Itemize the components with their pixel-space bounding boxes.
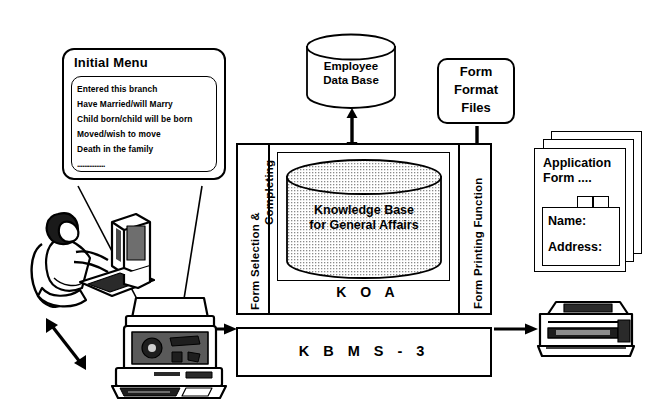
employee-database-cylinder[interactable]: Employee Data Base [305, 33, 397, 109]
application-form-fields-frame: Name: Address: [542, 207, 620, 266]
koa-label: K O A [318, 284, 418, 300]
menu-item-3[interactable]: Child born/child will be born [77, 112, 216, 127]
initial-menu-list: Entered this branch Have Married/will Ma… [71, 76, 217, 172]
menu-item-1[interactable]: Entered this branch [77, 82, 216, 97]
form-format-line1: Form [439, 63, 513, 81]
application-form-line1: Application [543, 156, 611, 171]
menu-item-5[interactable]: Death in the family [77, 142, 216, 157]
menu-item-4[interactable]: Moved/wish to move [77, 127, 216, 142]
form-format-line3: Files [439, 99, 513, 117]
form-printing-label: Form Printing Function [472, 177, 484, 309]
workstation-computer-icon[interactable] [112, 296, 226, 400]
initial-menu-title: Initial Menu [74, 55, 148, 70]
application-form-sheet-front[interactable]: Application Form .... Name: Address: [534, 148, 626, 272]
user-bidirectional-arrow-icon [42, 318, 90, 370]
form-selection-label-line1: Form Selection & [249, 212, 261, 310]
menu-item-2[interactable]: Have Married/will Marry [77, 97, 216, 112]
initial-menu-panel[interactable]: Initial Menu Entered this branch Have Ma… [62, 48, 226, 180]
form-field-name-label: Name: [548, 214, 586, 229]
application-form-line2: Form .... [543, 171, 611, 186]
form-format-line2: Format [439, 81, 513, 99]
printer-icon[interactable] [534, 300, 638, 362]
form-selection-label-line2: Completing [263, 160, 275, 225]
knowledge-base-cylinder[interactable]: Knowledge Base for General Affairs [285, 157, 443, 281]
kbms-label: K B M S - 3 [236, 343, 492, 359]
form-field-address-label: Address: [548, 240, 602, 255]
menu-more-indicator: ................ [77, 157, 216, 171]
application-form-title: Application Form .... [543, 156, 611, 186]
output-right-arrow-icon [494, 322, 538, 336]
diagram-canvas: Initial Menu Entered this branch Have Ma… [0, 0, 670, 412]
form-format-files-box[interactable]: Form Format Files [437, 58, 515, 124]
